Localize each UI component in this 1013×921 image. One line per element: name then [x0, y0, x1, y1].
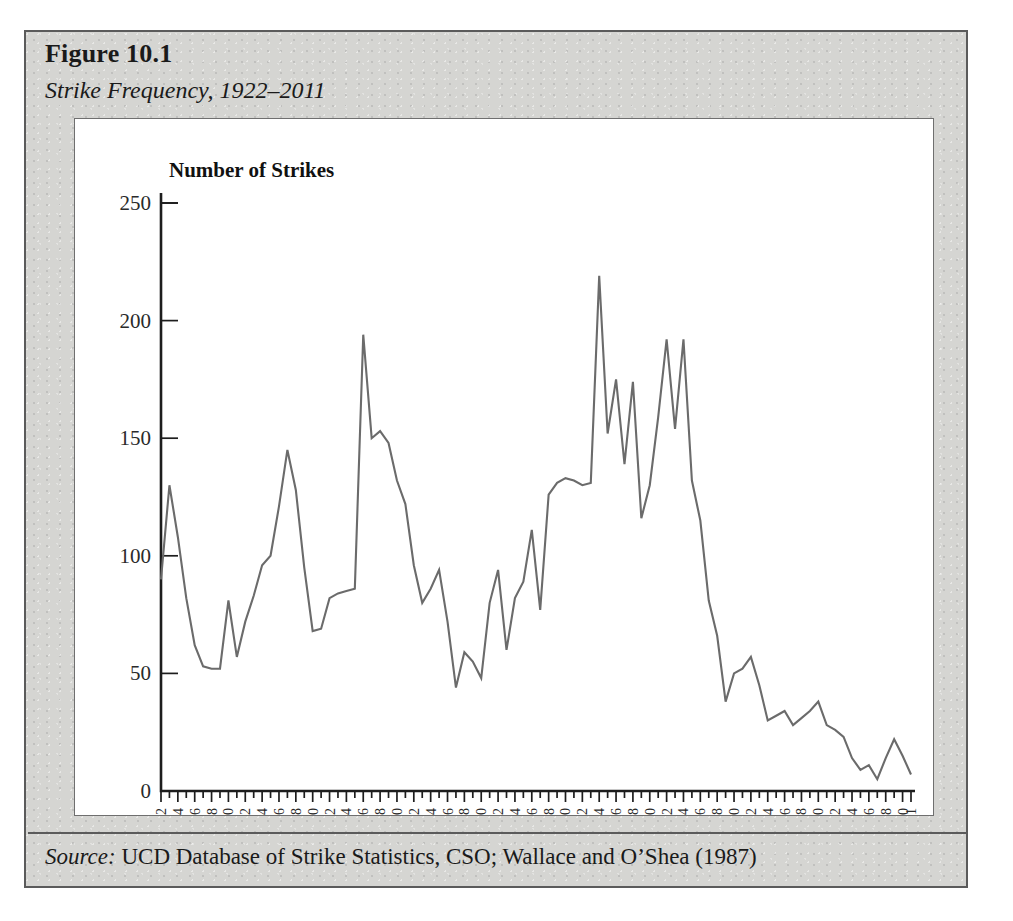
x-axis-tick-label: 1930 — [221, 808, 236, 815]
x-axis-tick-label: 1938 — [289, 808, 304, 815]
strike-frequency-line-chart: Number of Strikes 050100150200250 192219… — [75, 119, 933, 815]
figure-caption: Strike Frequency, 1922–2011 — [45, 77, 326, 104]
axis-spine-path — [161, 193, 915, 791]
x-axis-tick-label: 1952 — [407, 808, 422, 815]
y-axis-tick-label: 250 — [120, 191, 152, 215]
x-axis-tick-label: 1924 — [171, 808, 186, 815]
x-axis-tick-label: 1926 — [188, 808, 203, 815]
x-axis-tick-label: 2008 — [879, 808, 894, 815]
x-axis-tick-label: 1958 — [457, 808, 472, 815]
figure-page: Figure 10.1 Strike Frequency, 1922–2011 … — [0, 0, 1013, 921]
x-axis-tick-label: 2004 — [845, 808, 860, 815]
x-axis-tick-label: 1934 — [255, 808, 270, 815]
x-axis-tick-label: 1968 — [542, 808, 557, 815]
x-axis-tick-label: 1950 — [390, 808, 405, 815]
x-axis-tick-label: 1994 — [761, 808, 776, 815]
chart-plot-title: Number of Strikes — [169, 158, 334, 182]
figure-number: Figure 10.1 — [45, 39, 172, 69]
x-axis-tick-label: 1976 — [609, 808, 624, 815]
chart-axis-title-group: Number of Strikes — [169, 158, 334, 182]
x-axis-tick-label: 1944 — [339, 808, 354, 815]
x-axis-tick-label: 1990 — [727, 808, 742, 815]
x-axis-tick-label: 1966 — [525, 808, 540, 815]
chart-panel: Number of Strikes 050100150200250 192219… — [74, 118, 934, 816]
axis-spines — [161, 193, 915, 791]
y-axis-tick-label: 100 — [120, 544, 152, 568]
x-axis-tick-label: 1970 — [558, 808, 573, 815]
x-axis-tick-label: 1946 — [356, 808, 371, 815]
x-axis-tick-label: 2000 — [811, 808, 826, 815]
x-axis-tick-label: 1940 — [306, 808, 321, 815]
x-axis-tick-label: 1998 — [794, 808, 809, 815]
x-axis-tick-label: 1982 — [660, 808, 675, 815]
x-axis-tick-label: 2006 — [862, 808, 877, 815]
x-axis-tick-label: 1972 — [575, 808, 590, 815]
source-divider — [28, 832, 968, 834]
x-axis-tick-label: 1974 — [592, 808, 607, 815]
x-axis-tick-label: 2002 — [828, 808, 843, 815]
x-axis-tick-label: 1988 — [710, 808, 725, 815]
x-axis-tick-label: 1986 — [693, 808, 708, 815]
y-axis-tick-label: 50 — [130, 661, 151, 685]
x-axis-tick-label: 1962 — [491, 808, 506, 815]
source-note: Source: UCD Database of Strike Statistic… — [45, 844, 757, 870]
y-axis-tick-label: 150 — [120, 426, 152, 450]
x-axis-tick-label: 1948 — [373, 808, 388, 815]
x-axis-tick-label: 1942 — [323, 808, 338, 815]
x-axis-tick-label: 2011 — [904, 808, 919, 815]
x-axis-tick-label: 1996 — [778, 808, 793, 815]
x-axis-tick-label: 1992 — [744, 808, 759, 815]
y-axis-tick-label: 200 — [120, 309, 152, 333]
x-axis-tick-label: 1978 — [626, 808, 641, 815]
x-axis-tick-label: 1954 — [424, 808, 439, 815]
strike-frequency-series — [161, 276, 911, 779]
x-axis-tick-group: 1922192419261928193019321934193619381940… — [154, 791, 919, 815]
x-axis-tick-label: 1964 — [508, 808, 523, 815]
x-axis-tick-label: 1960 — [474, 808, 489, 815]
figure-container: Figure 10.1 Strike Frequency, 1922–2011 … — [24, 30, 968, 888]
y-axis-tick-label: 0 — [141, 779, 152, 803]
data-line-group — [161, 276, 911, 779]
x-axis-tick-label: 1932 — [238, 808, 253, 815]
x-axis-tick-label: 1922 — [154, 808, 169, 815]
x-axis-tick-label: 1980 — [643, 808, 658, 815]
x-axis-tick-label: 1984 — [676, 808, 691, 815]
x-axis-tick-label: 1928 — [205, 808, 220, 815]
source-label: Source: — [45, 844, 116, 869]
x-axis-tick-label: 1936 — [272, 808, 287, 815]
x-axis-tick-label: 1956 — [441, 808, 456, 815]
source-text: UCD Database of Strike Statistics, CSO; … — [116, 844, 757, 869]
